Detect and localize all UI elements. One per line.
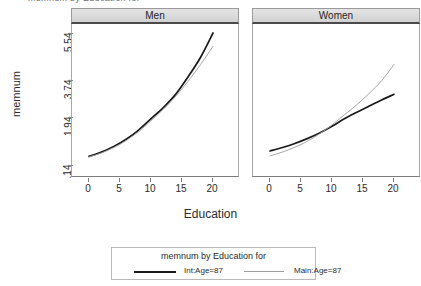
panel-men: Men 05101520 (71, 8, 239, 177)
x-axis-title: Education (0, 207, 421, 221)
x-tick-mark (331, 178, 332, 182)
x-tick-mark (88, 178, 89, 182)
panel-women-header: Women (252, 8, 420, 24)
panel-men-curves (72, 24, 240, 177)
x-tick-label: 5 (116, 183, 122, 194)
x-tick-label: 0 (266, 183, 272, 194)
x-tick-label: 15 (356, 183, 367, 194)
x-tick-label: 10 (325, 183, 336, 194)
x-tick-mark (300, 178, 301, 182)
x-tick-mark (150, 178, 151, 182)
legend: memnum by Education for Int:Age=87Main:A… (111, 247, 316, 280)
x-tick-label: 5 (297, 183, 303, 194)
legend-entries: Int:Age=87Main:Age=87 (112, 266, 315, 278)
curve-main-age-87 (270, 65, 394, 156)
x-tick-label: 15 (175, 183, 186, 194)
clipped-chart-title: memnum by Education for (28, 0, 140, 3)
curve-main-age-87 (89, 46, 213, 156)
panel-men-x-axis: 05101520 (71, 178, 239, 200)
panel-women-x-axis: 05101520 (252, 178, 420, 200)
x-tick-label: 20 (206, 183, 217, 194)
x-tick-label: 10 (144, 183, 155, 194)
panel-women-plot (252, 24, 420, 177)
x-tick-mark (269, 178, 270, 182)
y-tick-mark (68, 165, 73, 166)
x-tick-mark (181, 178, 182, 182)
x-tick-mark (393, 178, 394, 182)
x-tick-mark (119, 178, 120, 182)
legend-title: memnum by Education for (112, 251, 315, 261)
x-tick-mark (362, 178, 363, 182)
y-axis-title: memnum (10, 54, 22, 134)
curve-int-age-87 (89, 33, 213, 156)
y-axis-ticks: .141.943.745.54 (46, 0, 68, 190)
x-tick-mark (212, 178, 213, 182)
chart-root: memnum by Education for memnum .141.943.… (0, 0, 421, 286)
y-tick-mark (68, 80, 73, 81)
legend-key-1 (134, 271, 176, 273)
y-tick-mark (68, 117, 73, 118)
legend-key-2 (244, 271, 284, 272)
curve-int-age-87 (270, 94, 394, 151)
legend-label-1: Int:Age=87 (184, 266, 223, 275)
panel-women-title: Women (319, 10, 353, 21)
y-tick-mark (68, 33, 73, 34)
x-tick-label: 20 (387, 183, 398, 194)
panel-men-plot (71, 24, 239, 177)
panel-men-title: Men (145, 10, 164, 21)
panel-men-header: Men (71, 8, 239, 24)
x-tick-label: 0 (85, 183, 91, 194)
legend-label-2: Main:Age=87 (294, 266, 341, 275)
panel-women-curves (253, 24, 421, 177)
panel-women: Women 05101520 (252, 8, 420, 177)
